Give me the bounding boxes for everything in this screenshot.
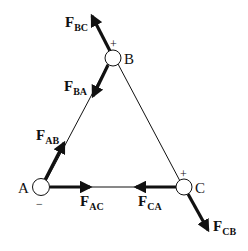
sign-a: − — [36, 197, 43, 211]
sign-b: + — [110, 37, 117, 51]
node-a — [33, 179, 50, 196]
force-label-ba: FBA — [64, 78, 88, 97]
sign-c: + — [180, 167, 187, 181]
force-label-ca: FCA — [138, 193, 162, 212]
force-label-cb: FCB — [213, 218, 236, 237]
force-label-ac: FAC — [80, 193, 104, 212]
node-c — [176, 179, 192, 195]
node-label-a: A — [18, 180, 29, 196]
node-b — [105, 50, 121, 66]
node-label-c: C — [195, 180, 205, 196]
truss-diagram: B A C + − + FBC FBA FAB FAC FCA FCB — [0, 0, 248, 251]
node-label-b: B — [124, 51, 134, 67]
member-bc — [118, 64, 180, 181]
force-arrow-ab — [45, 143, 64, 180]
force-arrow-bc — [92, 16, 110, 51]
force-arrow-ba — [93, 65, 108, 96]
force-label-ab: FAB — [36, 127, 59, 146]
force-arrow-cb — [188, 194, 208, 230]
force-label-bc: FBC — [65, 14, 88, 33]
